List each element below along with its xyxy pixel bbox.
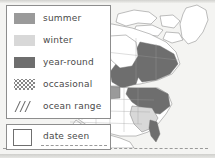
solid-fill-swatch-icon	[14, 13, 35, 24]
legend-item-label: year-round	[43, 57, 94, 68]
page-bottom-edge	[0, 154, 215, 158]
map-region-arctic-islands	[163, 32, 183, 43]
map-region-arctic-islands	[116, 10, 157, 26]
range-map-legend-page: summer winter year-round occasional ocea…	[0, 0, 215, 158]
diagonal-hatch-swatch-icon	[14, 101, 35, 112]
legend-item-summer[interactable]: summer	[14, 12, 81, 25]
legend-item-label: winter	[43, 35, 73, 46]
legend-item-occasional[interactable]: occasional	[14, 78, 92, 91]
map-region-arctic-islands	[160, 15, 180, 28]
date-seen-checkbox[interactable]	[13, 129, 32, 146]
legend-item-winter[interactable]: winter	[14, 34, 73, 47]
legend-item-label: summer	[43, 13, 81, 24]
date-seen-write-in-line[interactable]	[41, 145, 107, 147]
solid-fill-swatch-icon	[14, 35, 35, 46]
date-seen-label: date seen	[43, 131, 89, 141]
legend-item-ocean-range[interactable]: ocean range	[14, 100, 101, 113]
date-seen-panel: date seen	[6, 124, 111, 150]
legend-item-label: occasional	[43, 79, 92, 90]
solid-fill-swatch-icon	[14, 57, 35, 68]
legend-item-year-round[interactable]: year-round	[14, 56, 94, 69]
map-region-greenland	[180, 5, 208, 44]
page-top-edge	[0, 0, 215, 3]
legend-item-label: ocean range	[43, 101, 101, 112]
dotted-pattern-swatch-icon	[14, 79, 35, 90]
legend-panel: summer winter year-round occasional ocea…	[6, 5, 111, 119]
